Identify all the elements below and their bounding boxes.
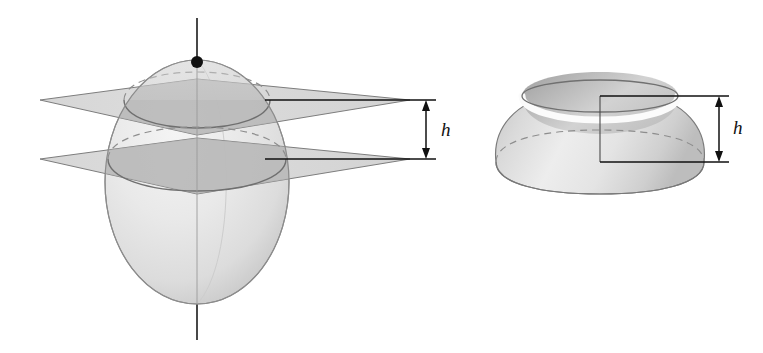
height-arrowhead-down-right [715,151,723,162]
height-label-right: h [733,117,743,138]
height-arrowhead-up [422,100,430,111]
figure-root: h h [0,0,763,353]
panel-spherical-zone: h [496,72,743,194]
height-label-left: h [441,119,451,140]
spherical-zone-figure: h h [0,0,763,353]
height-arrowhead-up-right [715,96,723,107]
height-arrowhead-down [422,148,430,159]
north-pole-point [191,56,203,68]
panel-sphere-with-planes: h [40,18,451,340]
